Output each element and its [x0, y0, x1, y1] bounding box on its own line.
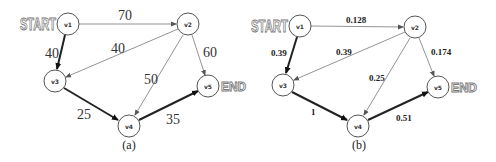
- node-a-v3: v3: [44, 70, 66, 92]
- edge-weight-b-v2-v5: 0.174: [431, 47, 452, 57]
- edge-b-v1-v2: [311, 26, 403, 27]
- node-b-v4: v4: [347, 115, 369, 137]
- node-label: v2: [411, 24, 419, 31]
- edge-weight-b-v1-v3: 0.39: [271, 48, 287, 58]
- start-label-a: START: [20, 16, 56, 33]
- edge-weight-a-v4-v5: 35: [166, 112, 180, 127]
- edge-weight-a-v2-v5: 60: [203, 45, 217, 60]
- node-label: v1: [64, 21, 72, 28]
- node-label: v4: [354, 123, 362, 130]
- node-a-v1: v1: [57, 13, 79, 35]
- node-a-v2: v2: [177, 13, 199, 35]
- edge-weight-a-v1-v3: 40: [45, 46, 59, 61]
- graph-a: 70 40 40 50 60 25 35 v1 v2 v3 v4 v5 STAR…: [20, 8, 246, 152]
- diagram-canvas: 70 40 40 50 60 25 35 v1 v2 v3 v4 v5 STAR…: [0, 0, 496, 162]
- node-label: v4: [125, 123, 133, 130]
- edge-weight-a-v1-v2: 70: [118, 8, 132, 23]
- node-label: v5: [204, 83, 212, 90]
- node-b-v3: v3: [272, 74, 294, 96]
- edge-weight-a-v3-v4: 25: [77, 107, 91, 122]
- edge-weight-b-v4-v5: 0.51: [396, 113, 412, 123]
- start-label-b: START: [251, 18, 288, 35]
- end-label-b: END: [451, 80, 477, 95]
- edge-weight-a-v2-v3: 40: [111, 41, 125, 56]
- node-b-v1: v1: [289, 15, 311, 37]
- edge-weight-b-v2-v4: 0.25: [369, 73, 385, 83]
- caption-b: (b): [352, 138, 366, 152]
- edge-weight-a-v2-v4: 50: [144, 72, 158, 87]
- graph-b: 0.128 0.39 0.39 0.25 0.174 1 0.51 v1 v2 …: [251, 15, 477, 152]
- end-label-a: END: [221, 79, 246, 94]
- node-label: v1: [296, 23, 304, 30]
- node-label: v2: [184, 21, 192, 28]
- node-label: v3: [51, 78, 59, 85]
- edge-a-v3-v4: [64, 88, 118, 120]
- edge-b-v3-v4: [292, 92, 347, 120]
- node-label: v3: [279, 82, 287, 89]
- node-b-v2: v2: [404, 16, 426, 38]
- caption-a: (a): [122, 138, 135, 152]
- edge-weight-b-v1-v2: 0.128: [346, 15, 367, 25]
- node-a-v5: v5: [197, 75, 219, 97]
- edge-b-v2-v5: [419, 38, 434, 76]
- node-b-v5: v5: [427, 76, 449, 98]
- node-a-v4: v4: [118, 115, 140, 137]
- edge-weight-b-v2-v3: 0.39: [336, 47, 352, 57]
- node-label: v5: [434, 84, 442, 91]
- edge-b-v1-v3: [286, 37, 297, 73]
- edge-weight-b-v3-v4: 1: [311, 107, 316, 117]
